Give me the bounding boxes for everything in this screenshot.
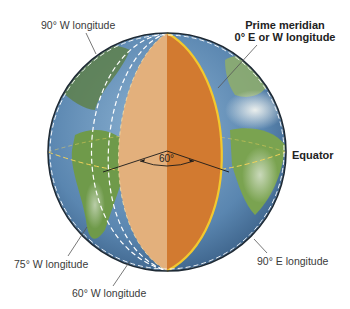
label-90e-longitude: 90° E longitude xyxy=(257,255,328,267)
cloud xyxy=(242,147,278,203)
leader-60w xyxy=(113,261,130,286)
label-prime-meridian-title: Prime meridian xyxy=(230,19,340,31)
label-90w-longitude: 90° W longitude xyxy=(41,19,115,31)
label-75w-longitude: 75° W longitude xyxy=(14,258,88,270)
cloud xyxy=(85,181,105,229)
label-prime-meridian: Prime meridian 0° E or W longitude xyxy=(230,19,340,43)
label-60w-longitude: 60° W longitude xyxy=(72,287,146,299)
longitude-diagram: 90° W longitude Prime meridian 0° E or W… xyxy=(0,0,350,309)
label-angle-60: 60° xyxy=(159,153,174,165)
label-prime-meridian-sub: 0° E or W longitude xyxy=(230,31,340,43)
leader-90w xyxy=(86,33,96,54)
leader-90e xyxy=(254,239,267,253)
label-equator: Equator xyxy=(292,149,334,161)
